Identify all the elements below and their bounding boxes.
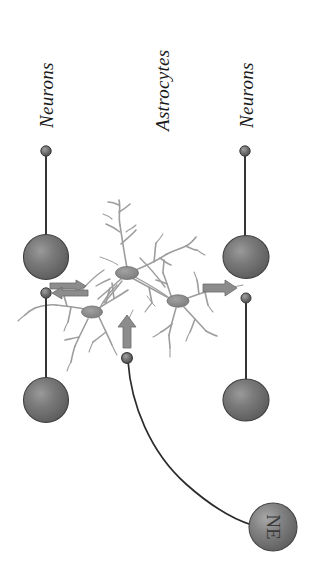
label-left-neurons: Neurons [36, 62, 58, 128]
diagram-canvas: Neurons Astrocytes Neurons [0, 0, 318, 581]
neuron-terminal-right-mid [241, 293, 251, 303]
neuron-soma-left-upper [24, 235, 69, 280]
astrocyte-soma-upper [116, 267, 139, 280]
neuron-terminal-left-top [41, 146, 51, 156]
neuron-terminal-right-top [240, 146, 250, 156]
neuron-soma-left-lower [24, 378, 69, 423]
label-right-neurons: Neurons [236, 62, 258, 128]
arrow-astrocyte-to-right-neuron [203, 280, 237, 296]
ne-label: NE [263, 514, 284, 539]
neuron-soma-right-upper [223, 236, 269, 279]
astrocyte-soma-right [167, 295, 189, 307]
label-astrocytes: Astrocytes [152, 50, 174, 131]
arrow-ne-to-astrocyte [118, 315, 136, 348]
neuron-soma-right-lower [223, 379, 269, 421]
ne-terminal [122, 353, 133, 364]
astrocyte-soma-lower-left [82, 306, 103, 318]
